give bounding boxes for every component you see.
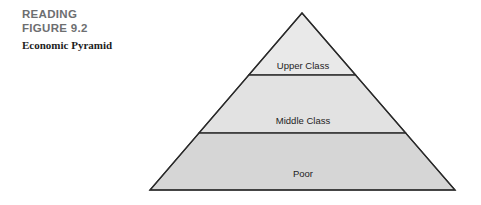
pyramid-label-middle-class: Middle Class [276,115,331,126]
pyramid-label-poor: Poor [293,168,313,179]
pyramid-svg: Upper Class Middle Class Poor [0,0,481,205]
pyramid-band-poor [150,133,455,190]
pyramid-label-upper-class: Upper Class [277,60,330,71]
pyramid-diagram: Upper Class Middle Class Poor [0,0,481,205]
economic-pyramid-figure: READING FIGURE 9.2 Economic Pyramid Uppe… [0,0,481,205]
